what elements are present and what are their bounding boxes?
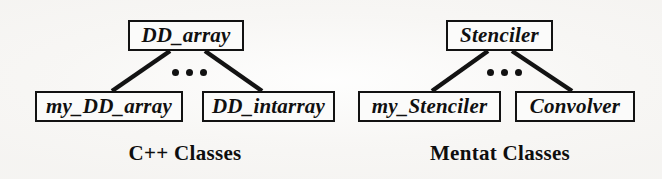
edge-dd-array-to-dd-intarray: [205, 51, 262, 91]
ellipsis-dot: [172, 69, 179, 76]
class-hierarchy-figure: DD_array my_DD_array DD_intarray Stencil…: [0, 0, 662, 179]
class-node-label: DD_intarray: [212, 96, 325, 117]
class-node-label: Convolver: [530, 96, 620, 117]
class-node-convolver[interactable]: Convolver: [515, 91, 635, 122]
class-node-my-stenciler[interactable]: my_Stenciler: [358, 91, 501, 122]
class-node-label: Stenciler: [460, 25, 539, 46]
class-node-dd-array[interactable]: DD_array: [128, 20, 244, 51]
class-node-dd-intarray[interactable]: DD_intarray: [202, 91, 335, 122]
class-node-label: my_Stenciler: [372, 96, 488, 117]
ellipsis-icon: [487, 69, 522, 76]
edge-dd-array-to-my-dd-array: [112, 51, 170, 91]
ellipsis-dot: [487, 69, 494, 76]
ellipsis-dot: [515, 69, 522, 76]
class-node-label: my_DD_array: [46, 96, 172, 117]
ellipsis-dot: [200, 69, 207, 76]
class-node-my-dd-array[interactable]: my_DD_array: [35, 91, 183, 122]
ellipsis-dot: [186, 69, 193, 76]
edge-stenciler-to-my-stenciler: [432, 51, 488, 91]
inheritance-edges: [0, 0, 662, 179]
ellipsis-icon: [172, 69, 207, 76]
class-node-stenciler[interactable]: Stenciler: [446, 20, 553, 51]
ellipsis-dot: [501, 69, 508, 76]
class-node-label: DD_array: [141, 25, 230, 46]
